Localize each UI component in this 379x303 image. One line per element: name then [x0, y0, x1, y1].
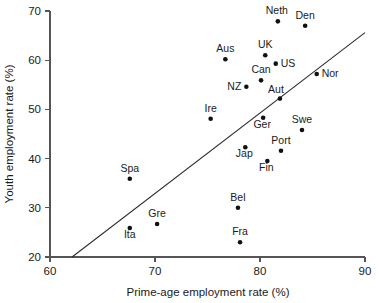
data-point-marker — [278, 96, 283, 101]
axes-group — [50, 11, 365, 257]
data-point: Ger — [253, 115, 271, 129]
data-point: Swe — [292, 113, 313, 132]
data-point-label: Nor — [322, 67, 339, 79]
trend-line — [72, 33, 365, 257]
data-point: Port — [271, 134, 290, 153]
y-tick-label: 70 — [28, 5, 41, 17]
data-point-label: Port — [271, 134, 290, 146]
y-tick-label: 20 — [28, 251, 41, 263]
x-tick-label: 60 — [44, 265, 57, 277]
data-point-marker — [303, 23, 308, 28]
trend-line-group — [72, 33, 365, 257]
x-tick-label: 70 — [149, 265, 162, 277]
data-point: NZ — [227, 80, 248, 92]
data-point: Nor — [314, 67, 339, 79]
data-point-label: Den — [296, 9, 315, 21]
data-point: Den — [296, 9, 315, 28]
data-point-marker — [128, 176, 133, 181]
y-tick-label: 60 — [28, 54, 41, 66]
data-point-marker — [314, 72, 319, 77]
data-point: Ire — [205, 102, 217, 121]
data-point: US — [273, 57, 295, 69]
data-point-label: US — [281, 57, 296, 69]
data-point: Bel — [230, 191, 245, 210]
data-point-label: Aus — [216, 42, 234, 54]
data-point-marker — [273, 61, 278, 66]
data-point-marker — [300, 128, 305, 133]
data-point-label: Swe — [292, 113, 313, 125]
y-axis-ticks: 203040506070 — [28, 5, 50, 263]
data-point-marker — [238, 240, 243, 245]
data-point-label: Fra — [232, 225, 248, 237]
data-point-marker — [276, 19, 281, 24]
data-point: UK — [258, 38, 273, 57]
data-point: Spa — [120, 162, 139, 181]
x-tick-label: 80 — [254, 265, 267, 277]
y-axis-title: Youth employment rate (%) — [3, 64, 15, 203]
data-point-marker — [236, 206, 241, 211]
data-point: Ita — [124, 226, 136, 240]
data-point-marker — [279, 148, 284, 153]
data-point-label: UK — [258, 38, 273, 50]
data-point-label: NZ — [227, 80, 242, 92]
data-point: Fra — [232, 225, 248, 244]
data-point: Can — [251, 63, 270, 82]
data-point-label: Ger — [253, 118, 271, 130]
data-point: Gre — [148, 207, 166, 226]
data-point: Aus — [216, 42, 234, 61]
data-point: Neth — [266, 4, 288, 23]
data-point: Jap — [236, 145, 253, 159]
x-axis-title: Prime-age employment rate (%) — [127, 286, 290, 298]
data-point-label: Aut — [268, 83, 284, 95]
data-point-label: Gre — [148, 207, 166, 219]
y-tick-label: 40 — [28, 153, 41, 165]
data-point-label: Bel — [230, 191, 245, 203]
data-point: Aut — [268, 83, 284, 101]
data-point-label: Ita — [124, 228, 136, 240]
data-point-marker — [244, 84, 249, 89]
data-point-label: Neth — [266, 4, 288, 16]
y-tick-label: 50 — [28, 103, 41, 115]
x-axis-ticks: 60708090 — [44, 257, 372, 277]
data-point-label: Can — [251, 63, 270, 75]
scatter-chart: 203040506070 60708090 NethDenAusUKUSCanN… — [0, 0, 379, 303]
x-tick-label: 90 — [359, 265, 372, 277]
data-point-label: Ire — [205, 102, 217, 114]
data-point-label: Jap — [236, 147, 253, 159]
data-point-label: Spa — [120, 162, 139, 174]
data-point-label: Fin — [259, 161, 274, 173]
data-points-group: NethDenAusUKUSCanNorNZAutIreGerSweJapPor… — [120, 4, 339, 244]
data-point-marker — [263, 53, 268, 58]
data-point-marker — [259, 78, 264, 83]
data-point-marker — [208, 116, 213, 121]
data-point-marker — [155, 222, 160, 227]
plot-area: 203040506070 60708090 NethDenAusUKUSCanN… — [0, 0, 379, 303]
data-point: Fin — [259, 159, 274, 173]
y-tick-label: 30 — [28, 202, 41, 214]
data-point-marker — [223, 57, 228, 62]
